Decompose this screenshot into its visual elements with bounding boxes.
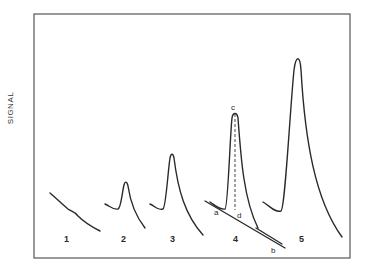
plot-frame <box>34 14 350 258</box>
trace-3 <box>150 154 203 235</box>
annotation-c: c <box>231 103 235 112</box>
figure-canvas: c a d b 1 2 3 4 5 <box>0 0 368 272</box>
tangent-baseline-overlap <box>256 228 282 244</box>
y-axis-label: SIGNAL <box>6 88 18 128</box>
trace-label-1: 1 <box>64 234 69 244</box>
trace-1 <box>50 193 100 231</box>
trace-5 <box>263 59 342 237</box>
trace-label-5: 5 <box>299 234 304 244</box>
annotation-b: b <box>271 246 276 255</box>
trace-label-4: 4 <box>233 234 238 244</box>
trace-label-3: 3 <box>170 234 175 244</box>
trace-2 <box>105 182 145 228</box>
annotation-a: a <box>214 208 219 217</box>
trace-label-2: 2 <box>121 234 126 244</box>
annotation-d: d <box>237 211 241 220</box>
